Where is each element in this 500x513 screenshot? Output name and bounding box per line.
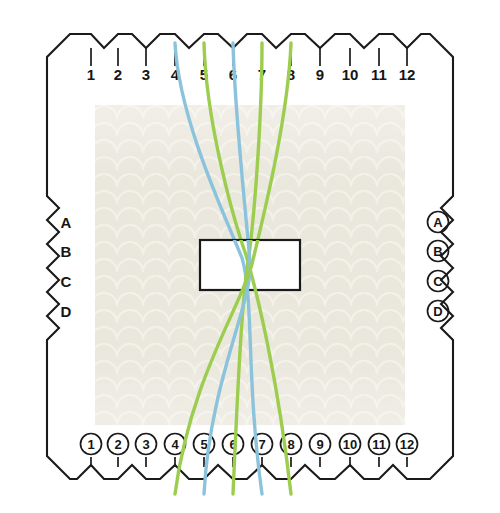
top-scale-label-12: 12 <box>399 66 416 83</box>
bottom-scale-label-3: 3 <box>142 437 149 452</box>
right-scale-label-a: A <box>433 215 443 230</box>
left-scale-label-d: D <box>61 303 72 320</box>
left-scale-label-a: A <box>61 214 72 231</box>
top-scale-label-11: 11 <box>371 66 387 83</box>
bottom-scale-label-2: 2 <box>114 437 121 452</box>
left-scale-label-b: B <box>61 243 72 260</box>
left-letter-scale: A B C D <box>61 214 72 320</box>
top-scale-label-1: 1 <box>87 66 95 83</box>
bottom-scale-label-5: 5 <box>200 437 207 452</box>
bottom-scale-label-1: 1 <box>87 437 94 452</box>
top-scale-label-10: 10 <box>342 66 359 83</box>
bottom-scale-label-8: 8 <box>287 437 294 452</box>
right-scale-label-b: B <box>433 244 442 259</box>
bottom-circled-scale: 1 2 3 4 5 6 7 8 9 10 11 12 <box>81 434 418 468</box>
bottom-scale-label-10: 10 <box>343 437 357 452</box>
top-scale-label-3: 3 <box>142 66 150 83</box>
top-scale-label-9: 9 <box>316 66 324 83</box>
bottom-scale-label-11: 11 <box>372 437 386 452</box>
diagram-canvas: 1 2 3 4 5 6 7 8 9 10 11 12 <box>0 0 500 513</box>
bottom-scale-label-7: 7 <box>258 437 265 452</box>
right-scale-label-d: D <box>433 304 442 319</box>
bottom-scale-label-9: 9 <box>316 437 323 452</box>
top-numbered-scale: 1 2 3 4 5 6 7 8 9 10 11 12 <box>87 48 416 83</box>
bottom-scale-label-4: 4 <box>171 437 179 452</box>
left-scale-label-c: C <box>61 273 72 290</box>
right-scale-label-c: C <box>433 274 443 289</box>
top-scale-label-2: 2 <box>114 66 122 83</box>
bottom-scale-label-12: 12 <box>400 437 414 452</box>
